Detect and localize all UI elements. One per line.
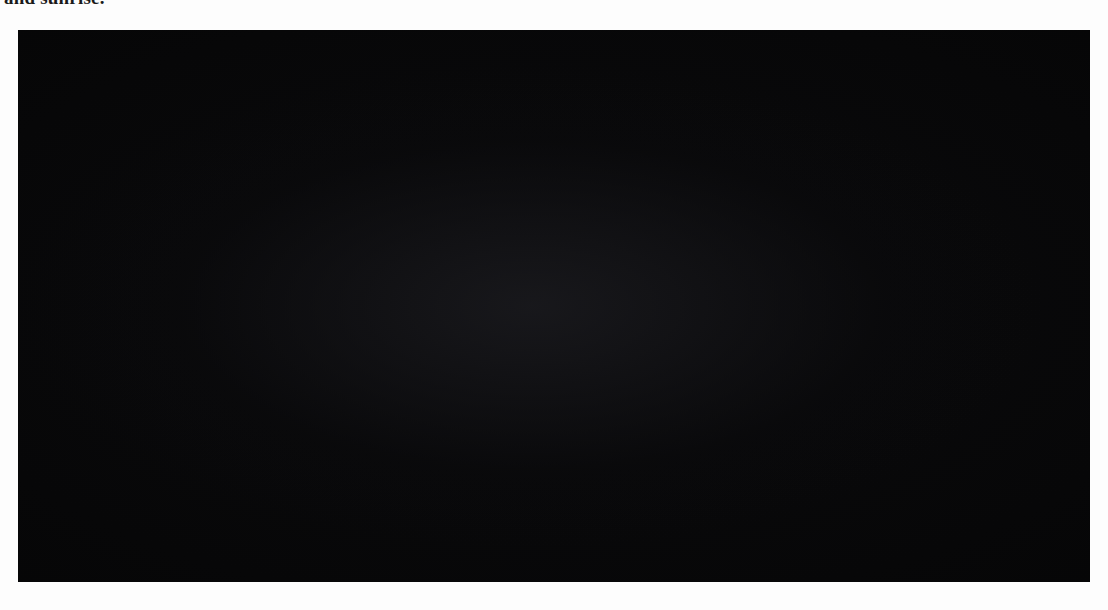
reference-flag bbox=[728, 135, 750, 159]
reference-flag bbox=[831, 167, 855, 189]
label-start: Start bbox=[856, 322, 900, 347]
sun-body bbox=[616, 232, 764, 380]
orbit-path bbox=[163, 68, 943, 544]
planet-4 bbox=[522, 30, 604, 127]
planet-12 bbox=[859, 393, 938, 485]
reference-flag bbox=[250, 185, 274, 207]
label-mercury: Mercury bbox=[363, 195, 439, 220]
label-sun: Sun bbox=[670, 390, 707, 415]
planet-7 bbox=[108, 245, 203, 342]
reference-flag bbox=[533, 103, 555, 127]
page-root: and sunrise. bbox=[0, 0, 1108, 610]
planet-3 bbox=[714, 50, 791, 159]
reference-flag bbox=[728, 547, 750, 571]
reference-flag bbox=[393, 98, 417, 120]
caption-text-crop: and sunrise. bbox=[0, 0, 1108, 20]
caption-text: and sunrise. bbox=[4, 0, 105, 9]
figure-panel: Mercury Sun Start One rotation completed bbox=[18, 30, 1090, 582]
label-one-rotation-completed: One rotation completed bbox=[55, 500, 245, 550]
reference-flag bbox=[213, 365, 235, 389]
reference-flag-right bbox=[981, 308, 1005, 330]
